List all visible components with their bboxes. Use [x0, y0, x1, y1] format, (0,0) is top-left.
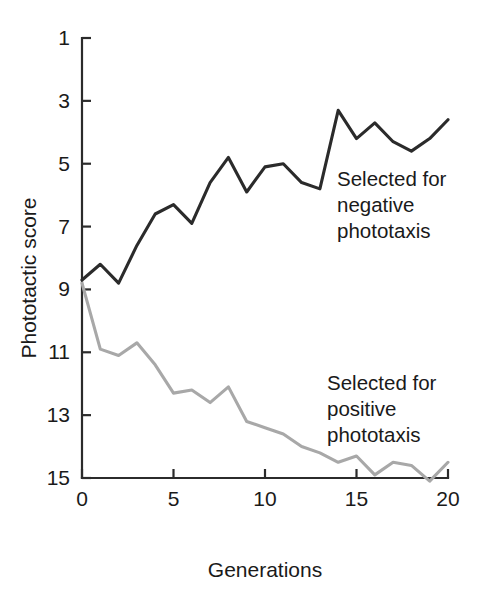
- x-axis-ticks: [82, 469, 448, 478]
- y-axis-title: Phototactic score: [17, 197, 40, 358]
- annotation-line: Selected for: [327, 371, 437, 394]
- y-tick-label-7: 7: [58, 215, 70, 238]
- phototactic-score-line-chart: 13579111315 05101520 Phototactic score G…: [0, 0, 480, 590]
- y-tick-label-1: 1: [58, 26, 70, 49]
- x-axis-tick-labels: 05101520: [76, 487, 460, 510]
- annotation-line: phototaxis: [337, 219, 430, 242]
- x-tick-label-10: 10: [253, 487, 276, 510]
- annotation-line: positive: [327, 397, 397, 420]
- annotation-line: Selected for: [337, 167, 447, 190]
- x-axis-title: Generations: [208, 558, 322, 581]
- y-tick-label-11: 11: [48, 340, 70, 363]
- y-tick-label-13: 13: [47, 403, 70, 426]
- annotation-line: phototaxis: [327, 423, 420, 446]
- y-tick-label-3: 3: [58, 89, 70, 112]
- y-axis-ticks: [82, 38, 91, 478]
- x-tick-label-15: 15: [345, 487, 368, 510]
- x-tick-label-0: 0: [76, 487, 88, 510]
- annotation-positive-label: Selected forpositivephototaxis: [327, 371, 437, 446]
- y-tick-label-5: 5: [58, 152, 70, 175]
- y-tick-label-9: 9: [58, 277, 70, 300]
- y-tick-label-15: 15: [47, 466, 70, 489]
- chart-figure: 13579111315 05101520 Phototactic score G…: [0, 0, 480, 590]
- annotation-negative-label: Selected fornegativephototaxis: [337, 167, 447, 242]
- series-annotations: Selected fornegativephototaxisSelected f…: [327, 167, 447, 446]
- y-axis-tick-labels: 13579111315: [47, 26, 70, 489]
- x-tick-label-5: 5: [168, 487, 180, 510]
- x-tick-label-20: 20: [436, 487, 459, 510]
- annotation-line: negative: [337, 193, 415, 216]
